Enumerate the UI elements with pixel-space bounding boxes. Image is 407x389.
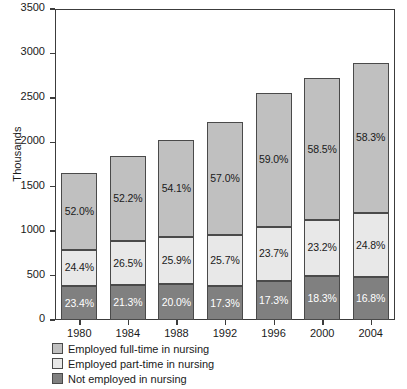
bar-segment-label: 17.3% xyxy=(210,298,239,309)
bar-segment-label: 17.3% xyxy=(259,295,288,306)
legend-swatch xyxy=(52,358,63,369)
x-axis-tick-mark xyxy=(371,320,372,325)
bar-segment-label: 26.5% xyxy=(113,258,142,269)
bar-segment[interactable]: 24.4% xyxy=(61,250,97,286)
bar-segment-label: 58.3% xyxy=(356,132,385,143)
bar-segment[interactable]: 52.0% xyxy=(61,173,97,250)
bar-segment-label: 24.8% xyxy=(356,240,385,251)
x-axis-tick-mark xyxy=(176,320,177,325)
bar-segment-label: 57.0% xyxy=(210,173,239,184)
bar-segment-label: 18.3% xyxy=(308,293,337,304)
y-axis-tick-label: 1000 xyxy=(21,223,45,235)
bar-segment-label: 59.0% xyxy=(259,154,288,165)
x-axis-tick-mark xyxy=(225,320,226,325)
bar-segment[interactable]: 23.4% xyxy=(61,286,97,320)
bar-segment-label: 54.1% xyxy=(162,183,191,194)
bar-segment[interactable]: 23.2% xyxy=(304,220,340,276)
chart-legend: Employed full-time in nursingEmployed pa… xyxy=(52,341,352,386)
bar-segment-label: 23.4% xyxy=(65,298,94,309)
bar-segment-label: 24.4% xyxy=(65,262,94,273)
bar-segment-label: 21.3% xyxy=(113,297,142,308)
bar-group[interactable]: 20.0%25.9%54.1% xyxy=(158,9,194,320)
bar-segment[interactable]: 25.7% xyxy=(207,235,243,286)
bar-segment-label: 23.2% xyxy=(308,242,337,253)
x-axis-tick-mark xyxy=(322,320,323,325)
bar-segment[interactable]: 24.8% xyxy=(353,213,389,277)
bar-group[interactable]: 16.8%24.8%58.3% xyxy=(353,9,389,320)
bar-segment[interactable]: 58.5% xyxy=(304,78,340,219)
bar-segment-label: 52.0% xyxy=(65,206,94,217)
bar-segment[interactable]: 26.5% xyxy=(110,241,146,285)
bar-segment-label: 20.0% xyxy=(162,297,191,308)
y-axis-tick-label: 500 xyxy=(27,268,45,280)
x-axis-tick-mark xyxy=(274,320,275,325)
bar-segment-label: 16.8% xyxy=(356,293,385,304)
x-axis-tick-mark xyxy=(79,320,80,325)
bar-group[interactable]: 21.3%26.5%52.2% xyxy=(110,9,146,320)
bar-segment[interactable]: 25.9% xyxy=(158,237,194,284)
y-axis-title: Thousands xyxy=(11,99,23,209)
legend-item-label: Not employed in nursing xyxy=(68,373,187,385)
bar-segment[interactable]: 17.3% xyxy=(256,281,292,320)
bar-segment[interactable]: 17.3% xyxy=(207,286,243,320)
bar-segment[interactable]: 58.3% xyxy=(353,63,389,213)
y-axis-tick-label: 3000 xyxy=(21,45,45,57)
bar-group[interactable]: 18.3%23.2%58.5% xyxy=(304,9,340,320)
bar-group[interactable]: 17.3%23.7%59.0% xyxy=(256,9,292,320)
bar-segment[interactable]: 59.0% xyxy=(256,93,292,227)
bar-group[interactable]: 17.3%25.7%57.0% xyxy=(207,9,243,320)
y-axis-tick-label: 2500 xyxy=(21,90,45,102)
legend-item[interactable]: Employed part-time in nursing xyxy=(52,356,352,371)
bar-segment-label: 52.2% xyxy=(113,193,142,204)
x-axis-tick-mark xyxy=(128,320,129,325)
y-axis-tick-label: 1500 xyxy=(21,179,45,191)
bar-segment[interactable]: 57.0% xyxy=(207,122,243,235)
y-axis-tick-label: 2000 xyxy=(21,134,45,146)
bars-layer: 23.4%24.4%52.0%21.3%26.5%52.2%20.0%25.9%… xyxy=(55,9,395,320)
stacked-bar-chart: Thousands 0500100015002000250030003500 2… xyxy=(0,0,407,389)
bar-segment[interactable]: 54.1% xyxy=(158,140,194,238)
bar-group[interactable]: 23.4%24.4%52.0% xyxy=(61,9,97,320)
bar-segment-label: 23.7% xyxy=(259,248,288,259)
bar-segment[interactable]: 20.0% xyxy=(158,284,194,320)
legend-item-label: Employed part-time in nursing xyxy=(68,358,214,370)
legend-swatch xyxy=(52,343,63,354)
bar-segment-label: 25.9% xyxy=(162,255,191,266)
bar-segment[interactable]: 16.8% xyxy=(353,277,389,320)
y-axis-tick-label: 3500 xyxy=(21,1,45,13)
bar-segment-label: 58.5% xyxy=(308,144,337,155)
bar-segment[interactable]: 52.2% xyxy=(110,156,146,242)
bar-segment[interactable]: 21.3% xyxy=(110,285,146,320)
bar-segment[interactable]: 23.7% xyxy=(256,227,292,281)
legend-item-label: Employed full-time in nursing xyxy=(68,343,209,355)
y-axis-tick-label: 0 xyxy=(39,312,45,324)
legend-swatch xyxy=(52,373,63,384)
x-axis-tick-label: 2004 xyxy=(341,327,401,339)
legend-item[interactable]: Employed full-time in nursing xyxy=(52,341,352,356)
bar-segment-label: 25.7% xyxy=(210,255,239,266)
bar-segment[interactable]: 18.3% xyxy=(304,276,340,320)
legend-item[interactable]: Not employed in nursing xyxy=(52,371,352,386)
